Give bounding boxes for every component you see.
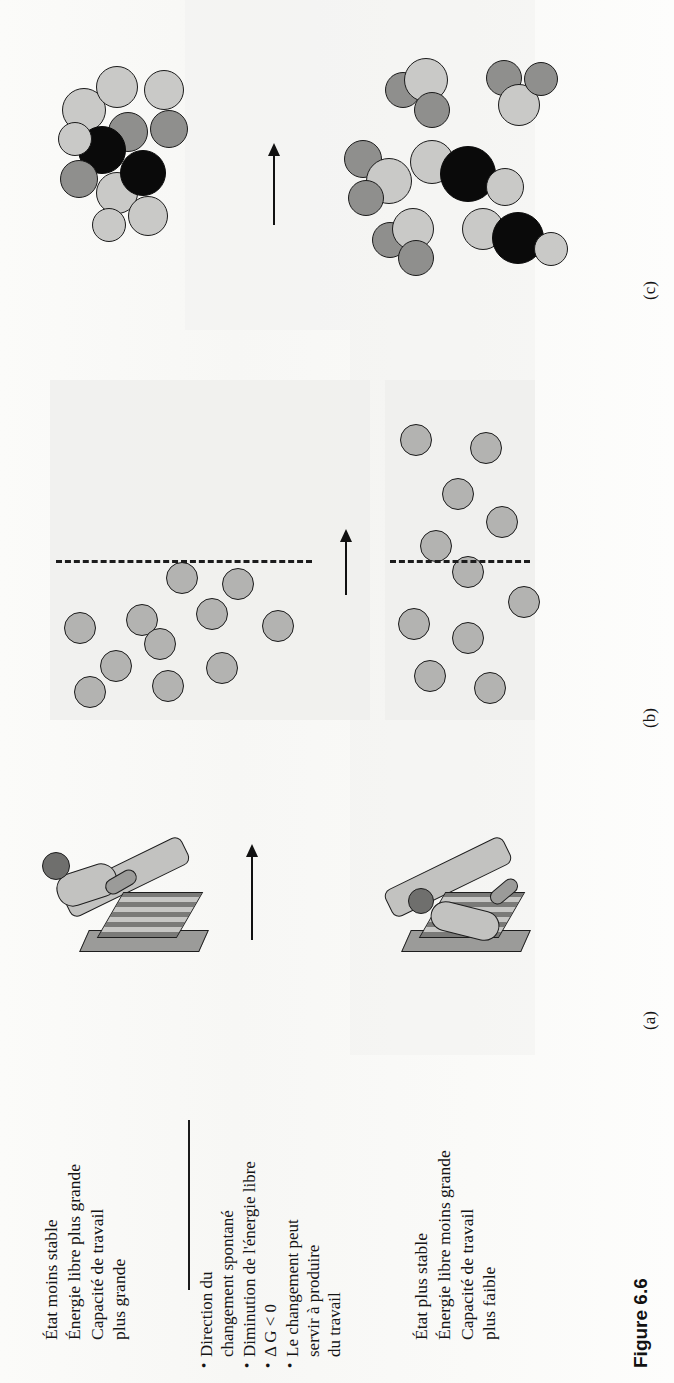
transition-arrow — [246, 844, 258, 940]
final-state-line: Énergie libre moins grande — [433, 1150, 456, 1340]
final-state-text: État plus stable Énergie libre moins gra… — [410, 1150, 501, 1340]
bullet-line: servir à produire — [303, 1161, 324, 1368]
middle-notes-list: Direction du changement spontané Diminut… — [196, 1161, 346, 1368]
initial-state-text: État moins stable Énergie libre plus gra… — [40, 1164, 131, 1340]
panel-c-arrow-wrapper — [268, 143, 280, 225]
figure-page: (c) (b) — [0, 0, 674, 1383]
final-state-line: Capacité de travail — [456, 1150, 479, 1340]
bullet-line: Δ G < 0 — [261, 1304, 280, 1357]
panel-label-b: (b) — [640, 708, 660, 728]
initial-state-line: Énergie libre plus grande — [63, 1164, 86, 1340]
initial-state-line: État moins stable — [40, 1164, 63, 1340]
list-item: Direction du — [196, 1161, 217, 1368]
bullet-line: Diminution de l'énergie libre — [240, 1161, 259, 1357]
transition-arrow — [340, 529, 352, 595]
transition-arrow — [268, 143, 280, 225]
figure-caption: Figure 6.6 — [630, 1278, 652, 1368]
initial-state-line: Capacité de travail — [86, 1164, 109, 1340]
panel-b-divider-initial — [56, 560, 312, 563]
bullet-line: Le changement peut — [283, 1219, 302, 1357]
list-item: Le changement peut — [282, 1161, 303, 1368]
initial-state-line: plus grande — [108, 1164, 131, 1340]
panel-label-a: (a) — [640, 1011, 660, 1030]
child-head-final — [408, 888, 434, 914]
final-state-line: État plus stable — [410, 1150, 433, 1340]
panel-a-arrow-wrapper — [246, 844, 258, 940]
bullet-line: du travail — [324, 1161, 345, 1368]
bullet-line: Direction du — [197, 1272, 216, 1357]
list-item: Δ G < 0 — [260, 1161, 281, 1368]
panel-b-divider-final — [390, 560, 530, 563]
panel-b-arrow-wrapper — [340, 529, 352, 595]
final-state-line: plus faible — [478, 1150, 501, 1340]
child-head-initial — [42, 852, 70, 880]
list-item: Diminution de l'énergie libre — [239, 1161, 260, 1368]
panel-label-c: (c) — [640, 281, 660, 300]
bullet-line: changement spontané — [217, 1161, 238, 1368]
notes-divider — [188, 1120, 190, 1290]
